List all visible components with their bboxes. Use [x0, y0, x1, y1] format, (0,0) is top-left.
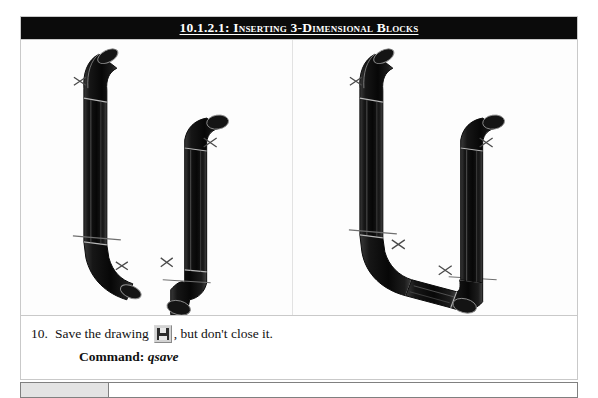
insertion-marker-x: [161, 258, 173, 267]
figure-row: [21, 40, 577, 316]
pipe-assembly-bottom-left-elbow: [348, 230, 411, 296]
insertion-marker-x: [391, 240, 404, 249]
figure-panel-after: [293, 40, 577, 315]
figure-panel-before: [21, 40, 293, 315]
instruction-row: 10. Save the drawing , but don't close i…: [21, 316, 577, 379]
step-line: 10. Save the drawing , but don't close i…: [31, 324, 567, 344]
section-header-band: 10.1.2.1: Inserting 3-Dimensional Blocks: [21, 17, 577, 40]
step-text-before-icon: Save the drawing: [55, 324, 149, 344]
next-table: [20, 382, 578, 398]
insertion-marker-x: [116, 262, 128, 270]
floppy-disk-glyph: [157, 328, 169, 340]
pipe-assembly-right-leg: [460, 114, 505, 283]
insertion-marker-x: [438, 266, 451, 275]
next-table-cell-empty: [109, 383, 577, 397]
next-table-cell-shaded: [21, 383, 109, 397]
pipe-segment-left: [73, 46, 143, 302]
pipe-assembly-left-leg: [349, 46, 395, 238]
pipe-segment-right: [161, 114, 230, 315]
step-text-after-icon: , but don't close it.: [174, 324, 273, 344]
pipe-drawing-before: [21, 40, 292, 315]
pipe-drawing-after: [293, 40, 577, 315]
document-table: 10.1.2.1: Inserting 3-Dimensional Blocks: [20, 16, 578, 380]
save-icon[interactable]: [154, 325, 172, 343]
command-line: Command: qsave: [31, 347, 567, 367]
step-number: 10.: [31, 324, 55, 344]
command-value: qsave: [148, 349, 179, 364]
page-title: 10.1.2.1: Inserting 3-Dimensional Blocks: [180, 21, 419, 35]
command-label: Command:: [79, 349, 144, 364]
pipe-assembly-bottom-run: [405, 280, 456, 308]
